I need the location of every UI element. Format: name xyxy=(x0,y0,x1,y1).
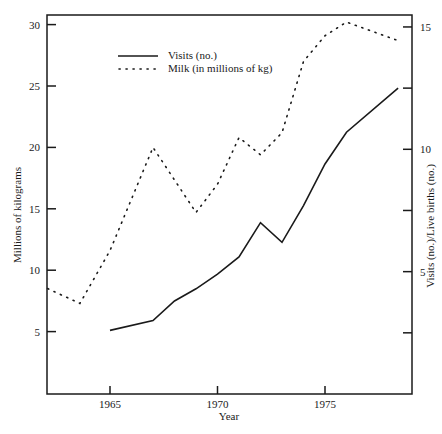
x-tick-label: 1965 xyxy=(99,398,122,410)
legend: Visits (no.) Milk (in millions of kg) xyxy=(118,49,273,75)
left-tick-label: 5 xyxy=(35,326,41,338)
left-tick-label: 10 xyxy=(29,264,41,276)
x-tick-label: 1975 xyxy=(314,398,337,410)
legend-milk-label: Milk (in millions of kg) xyxy=(168,62,273,75)
left-tick-label: 20 xyxy=(29,141,41,153)
visits-series-line xyxy=(110,88,398,330)
x-axis-title: Year xyxy=(219,410,240,422)
right-axis-title: Visits (no.)/Live births (no.) xyxy=(424,164,437,288)
right-tick-label: 15 xyxy=(420,21,432,33)
left-tick-label: 30 xyxy=(29,19,41,31)
legend-visits-label: Visits (no.) xyxy=(168,49,217,62)
chart-container: 51015202530 51015 196519701975 Visits (n… xyxy=(0,0,442,434)
x-axis-ticks: 196519701975 xyxy=(99,386,337,410)
left-axis-ticks: 51015202530 xyxy=(29,19,56,338)
chart-svg: 51015202530 51015 196519701975 Visits (n… xyxy=(0,0,442,434)
left-tick-label: 25 xyxy=(29,80,41,92)
right-tick-label: 10 xyxy=(420,143,432,155)
x-tick-label: 1970 xyxy=(207,398,230,410)
left-axis-title: Millions of kilograms xyxy=(11,167,23,263)
left-tick-label: 15 xyxy=(29,203,41,215)
